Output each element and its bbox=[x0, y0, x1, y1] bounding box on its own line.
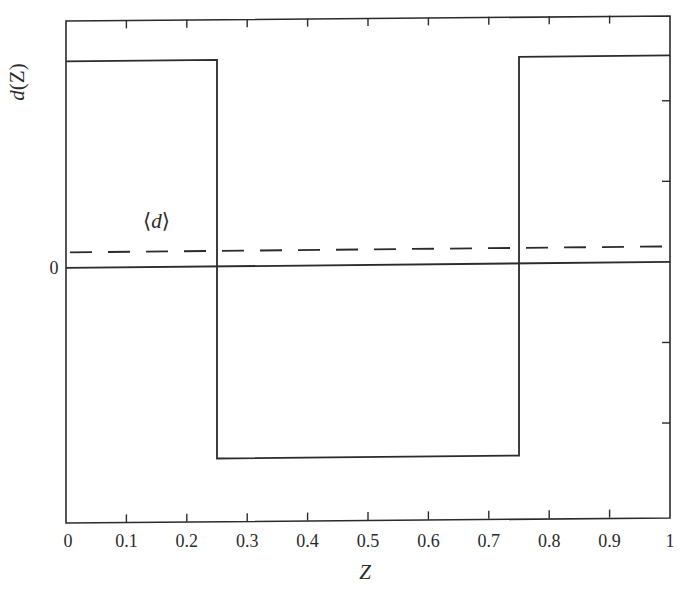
y-tick-labels: 0 bbox=[50, 258, 59, 278]
x-tick-label: 0 bbox=[64, 531, 73, 551]
plot-frame bbox=[66, 16, 670, 523]
x-tick-label: 0.5 bbox=[357, 531, 380, 551]
x-tick-label: 0.6 bbox=[417, 531, 440, 551]
x-axis-label: Z bbox=[359, 560, 371, 584]
x-tick-label: 0.4 bbox=[296, 531, 319, 551]
series-line-mean bbox=[66, 246, 670, 252]
axes-box bbox=[66, 16, 670, 523]
axis-ticks bbox=[126, 16, 670, 523]
mean-annotation: ⟨d⟩ bbox=[143, 209, 170, 233]
x-tick-label: 1 bbox=[666, 531, 675, 551]
x-tick-label: 0.3 bbox=[236, 531, 259, 551]
x-tick-label: 0.7 bbox=[478, 531, 501, 551]
y-tick-label: 0 bbox=[50, 258, 59, 278]
series-line-zero bbox=[66, 262, 670, 268]
series-group bbox=[66, 55, 670, 458]
x-tick-label: 0.9 bbox=[598, 531, 621, 551]
chart: 00.10.20.30.40.50.60.70.80.91 0 Z d(Z) ⟨… bbox=[0, 0, 690, 597]
x-tick-labels: 00.10.20.30.40.50.60.70.80.91 bbox=[64, 531, 675, 551]
x-tick-label: 0.8 bbox=[538, 531, 561, 551]
x-tick-label: 0.2 bbox=[176, 531, 199, 551]
series-line-d-of-z bbox=[66, 55, 670, 458]
y-axis-label: d(Z) bbox=[5, 63, 29, 100]
x-tick-label: 0.1 bbox=[115, 531, 138, 551]
